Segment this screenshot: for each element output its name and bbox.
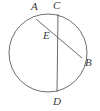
- point-label-c: C: [53, 0, 60, 11]
- point-label-b: B: [85, 57, 92, 68]
- point-label-a: A: [31, 1, 38, 12]
- point-label-d: D: [53, 96, 61, 107]
- point-label-e: E: [43, 30, 50, 41]
- chord-cd: [57, 14, 58, 92]
- geometry-figure: A C E B D: [0, 0, 100, 111]
- main-circle: [9, 14, 87, 92]
